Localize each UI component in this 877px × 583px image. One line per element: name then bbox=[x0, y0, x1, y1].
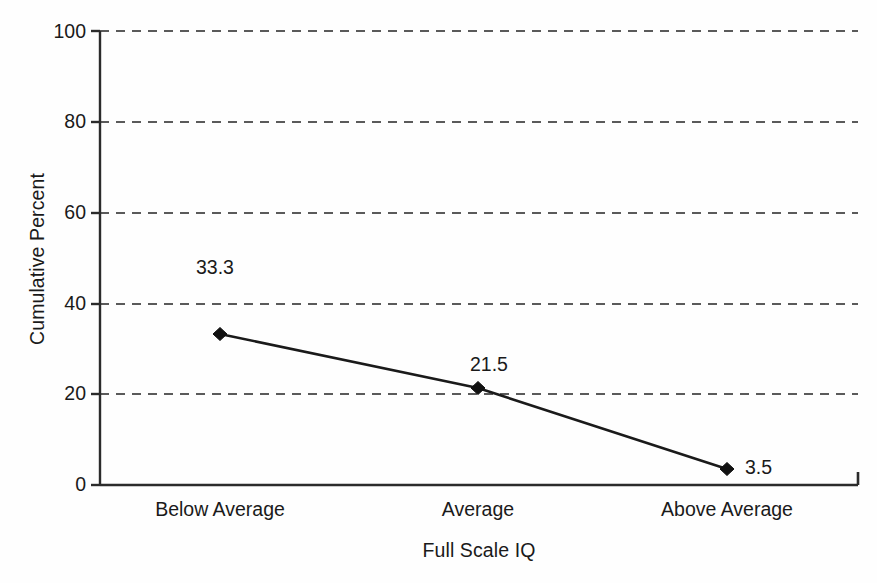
data-point-marker-2 bbox=[720, 463, 734, 476]
gridlines bbox=[100, 31, 858, 394]
x-axis-title: Full Scale IQ bbox=[100, 539, 858, 562]
data-point-marker-0 bbox=[213, 328, 227, 341]
plot-area bbox=[0, 0, 877, 583]
x-tick-label-below-average: Below Average bbox=[155, 500, 285, 520]
data-label-below-average: 33.3 bbox=[196, 258, 234, 278]
y-axis bbox=[91, 31, 100, 486]
chart-container: Cumulative Percent 0 20 40 60 80 100 bbox=[0, 0, 877, 583]
data-point-marker-1 bbox=[471, 382, 485, 395]
data-label-above-average: 3.5 bbox=[745, 458, 772, 478]
x-tick-label-average: Average bbox=[442, 500, 514, 520]
x-tick-label-above-average: Above Average bbox=[661, 500, 793, 520]
data-label-average: 21.5 bbox=[470, 355, 508, 375]
